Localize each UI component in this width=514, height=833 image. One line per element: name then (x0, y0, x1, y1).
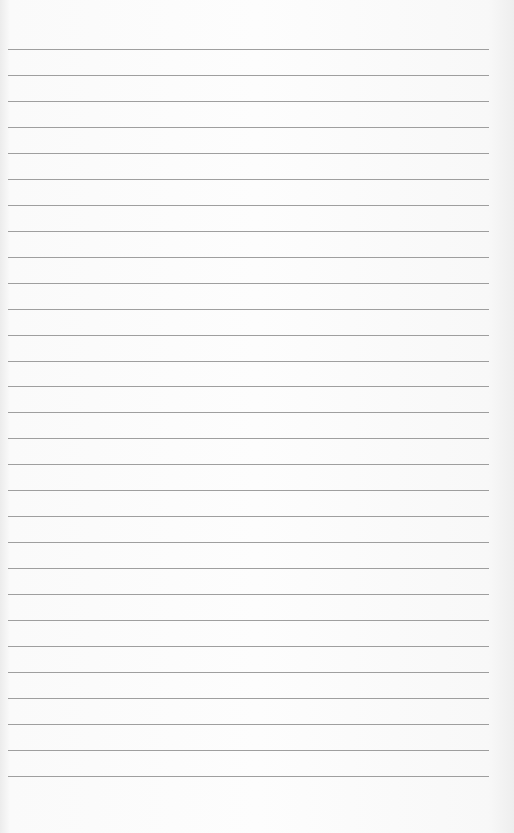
ruled-line (8, 309, 489, 310)
ruled-line (8, 776, 489, 777)
ruled-line (8, 490, 489, 491)
ruled-line (8, 568, 489, 569)
ruled-line (8, 516, 489, 517)
ruled-line (8, 127, 489, 128)
ruled-line (8, 49, 489, 50)
ruled-line (8, 101, 489, 102)
lined-paper-page (0, 0, 514, 833)
ruled-line (8, 283, 489, 284)
ruled-line (8, 257, 489, 258)
ruled-line (8, 750, 489, 751)
ruled-line (8, 386, 489, 387)
ruled-line (8, 464, 489, 465)
ruled-line (8, 542, 489, 543)
ruled-line (8, 153, 489, 154)
ruled-line (8, 231, 489, 232)
ruled-line (8, 412, 489, 413)
ruled-line (8, 205, 489, 206)
ruled-line (8, 438, 489, 439)
ruled-line (8, 594, 489, 595)
ruled-line (8, 646, 489, 647)
ruled-line (8, 698, 489, 699)
ruled-line (8, 724, 489, 725)
ruled-line (8, 361, 489, 362)
ruled-line (8, 620, 489, 621)
ruled-line (8, 75, 489, 76)
ruled-line (8, 179, 489, 180)
ruled-line (8, 335, 489, 336)
ruled-line (8, 672, 489, 673)
